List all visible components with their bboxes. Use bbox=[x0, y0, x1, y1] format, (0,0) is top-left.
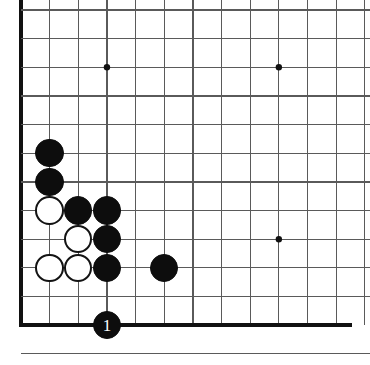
white-stone-c1-r9[interactable] bbox=[35, 254, 63, 282]
black-stone-b3-r9[interactable] bbox=[93, 254, 121, 282]
star-point-upper-left bbox=[104, 64, 110, 70]
black-stone-b1-r6[interactable] bbox=[35, 168, 63, 196]
white-stone-c1-r7[interactable] bbox=[35, 196, 63, 224]
black-stone-b2-r7[interactable] bbox=[64, 196, 92, 224]
go-board-diagram: 1 bbox=[0, 0, 370, 365]
star-point-lower-right bbox=[276, 236, 282, 242]
black-stone-b3-r7[interactable] bbox=[93, 196, 121, 224]
black-stone-b1-r5[interactable] bbox=[35, 139, 63, 167]
star-point-upper-right bbox=[276, 64, 282, 70]
